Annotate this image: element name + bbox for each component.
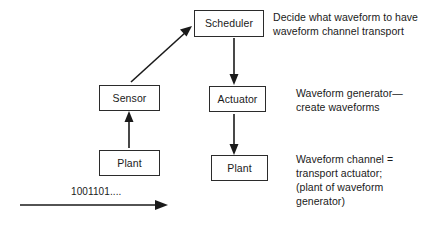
edge-bitstream-arrow (20, 200, 168, 210)
node-sensor-label: Sensor (113, 93, 147, 104)
edge-plant-to-sensor (125, 111, 134, 148)
node-scheduler-label: Scheduler (205, 18, 253, 29)
node-actuator-label: Actuator (218, 94, 258, 105)
node-scheduler[interactable]: Scheduler (194, 10, 264, 37)
node-sensor[interactable]: Sensor (99, 85, 160, 111)
edge-actuator-to-plant (230, 114, 239, 155)
bitstream-label: 1001101.... (71, 186, 121, 197)
node-plant-right[interactable]: Plant (211, 155, 268, 181)
node-actuator[interactable]: Actuator (209, 86, 266, 112)
node-plant-left[interactable]: Plant (99, 150, 160, 176)
node-plant-left-label: Plant (117, 158, 141, 169)
node-plant-right-label: Plant (227, 163, 251, 174)
diagram-canvas: Scheduler Sensor Actuator Plant Plant De… (0, 0, 426, 227)
edge-sensor-to-scheduler (131, 26, 192, 82)
note-scheduler: Decide what waveform to have waveform ch… (273, 10, 418, 38)
edge-scheduler-to-actuator (230, 38, 239, 85)
note-plant: Waveform channel = transport actuator; (… (296, 152, 393, 208)
note-actuator: Waveform generator— create waveforms (296, 86, 403, 114)
